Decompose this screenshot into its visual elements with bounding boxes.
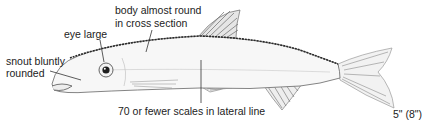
label-body-line2: in cross section — [115, 17, 187, 29]
caudal-fin — [338, 48, 394, 108]
fish-diagram: body almost round in cross section eye l… — [0, 0, 423, 125]
label-snout-line1: snout bluntly — [6, 55, 65, 67]
label-snout-line2: rounded — [6, 67, 45, 79]
label-body-line1: body almost round — [115, 4, 201, 16]
fish-body — [52, 36, 340, 93]
label-scales: 70 or fewer scales in lateral line — [118, 105, 265, 117]
dorsal-fin — [198, 10, 240, 38]
label-size: 5" (8") — [393, 108, 422, 120]
label-eye: eye large — [64, 28, 107, 40]
